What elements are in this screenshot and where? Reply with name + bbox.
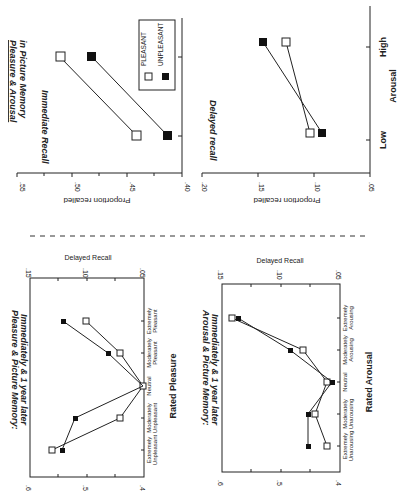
figure-canvas: .55 .50 .45 .40 Proportion recalled Plea… <box>0 0 401 491</box>
c3-tick-015: .15 <box>25 268 32 278</box>
c2-tick-005: .05 <box>368 182 375 192</box>
c4-title-line2: Immediately & 1 year later <box>210 314 220 426</box>
c2-pleasant-low-point <box>306 129 314 137</box>
c3-bottom-tick-05: .5 <box>82 485 89 491</box>
c3-open-point <box>117 415 123 421</box>
c3-cat-mod-pleasant-b: Pleasant <box>152 341 158 365</box>
c2-y-axis-label: Proportion recalled <box>253 196 320 205</box>
c2-tick-020: .20 <box>201 182 208 192</box>
c1-unpleasant-high-point <box>87 52 96 61</box>
c4-open-point <box>300 347 306 353</box>
legend-pleasant-label: PLEASANT <box>140 32 147 66</box>
c3-filled-point <box>61 319 66 324</box>
c4-filled-point <box>306 412 311 417</box>
c1-subtitle: Immediate Recall <box>40 90 50 164</box>
c4-cat-mod-unarousing-b: Unarousing <box>348 399 354 430</box>
c4-tick-005: .05 <box>335 270 342 280</box>
c3-tick-010: .10 <box>82 268 89 278</box>
chart-immediate-recall: .55 .50 .45 .40 Proportion recalled Plea… <box>8 18 191 205</box>
c1-pleasant-low-point <box>132 131 141 140</box>
c1-pleasant-high-point <box>56 52 65 61</box>
c4-cat-ext-arousing-b: Arousing <box>348 306 354 330</box>
c3-open-point <box>83 318 89 324</box>
chart-pleasure-memory: Delayed Recall .15 .10 .05 .6 .5 .4 Plea… <box>10 254 178 491</box>
c4-filled-point <box>236 316 241 321</box>
c4-tick-015: .15 <box>217 270 224 280</box>
c1-tick-050: .50 <box>74 182 81 192</box>
c3-title-line1: Pleasure & Picture Memory: <box>10 310 20 430</box>
legend-pleasant-swatch <box>145 73 152 80</box>
c3-filled-point <box>73 416 78 421</box>
c4-open-point <box>229 315 235 321</box>
c3-filled-point <box>60 448 65 453</box>
c4-bottom-tick-05: .5 <box>276 480 283 486</box>
legend-unpleasant-swatch <box>162 73 169 80</box>
c3-cat-ext-pleasant-b: Pleasant <box>152 309 158 333</box>
c3-open-point <box>49 447 55 453</box>
c4-title-line1: Arousal & Picture Memory: <box>201 309 211 426</box>
c4-filled-point <box>306 444 311 449</box>
c4-cat-ext-unarousing-b: Unarousing <box>348 431 354 462</box>
c2-pleasant-high-point <box>282 38 290 46</box>
c3-tick-005: .05 <box>139 268 146 278</box>
c3-cat-mod-unpleasant-b: Unpleasant <box>152 402 158 433</box>
c3-filled-point <box>106 351 111 356</box>
c3-bottom-tick-04: .4 <box>139 485 146 491</box>
c4-cat-neutral: Neutral <box>342 372 348 391</box>
c1-tick-045: .45 <box>129 182 136 192</box>
c4-filled-point <box>330 380 335 385</box>
c2-unpleasant-high-point <box>259 38 267 46</box>
c1-tick-040: .40 <box>184 182 191 192</box>
c2-tick-010: .10 <box>314 182 321 192</box>
c1-tick-055: .55 <box>19 182 26 192</box>
c3-x-axis-label: Rated Pleasure <box>168 353 178 418</box>
c2-tick-015: .15 <box>258 182 265 192</box>
c4-filled-point <box>288 348 293 353</box>
c4-bottom-tick-04: .4 <box>335 480 342 486</box>
c1-title-line2: in Picture Memory <box>18 40 28 119</box>
c2-x-axis-label: Arousal <box>388 69 398 103</box>
c3-top-axis-label: Delayed Recall <box>64 254 112 262</box>
c3-bottom-tick-06: .6 <box>25 485 32 491</box>
c4-open-point <box>312 411 318 417</box>
c2-x-high: High <box>378 37 388 57</box>
legend-unpleasant-label: UNPLEASANT <box>157 23 164 66</box>
c3-title-line2: Immediately & 1 year later <box>19 314 29 426</box>
c4-open-point <box>324 443 330 449</box>
c2-unpleasant-low-point <box>318 129 326 137</box>
c4-cat-mod-arousing-b: Arousing <box>348 338 354 362</box>
c4-x-axis-label: Rated Arousal <box>364 352 374 413</box>
c2-x-low: Low <box>378 130 388 149</box>
chart-arousal-memory: Delayed Recall .15 .10 .05 .6 .5 .4 Arou… <box>201 257 374 486</box>
c3-cat-ext-unpleasant-b: Unpleasant <box>152 434 158 465</box>
c1-title-line1: Pleasure & Arousal <box>8 40 18 123</box>
chart-delayed-recall: .20 .15 .10 .05 Proportion recalled Dela… <box>201 6 398 205</box>
c4-bottom-tick-06: .6 <box>217 480 224 486</box>
c4-top-axis-label: Delayed Recall <box>256 257 304 265</box>
c2-subtitle: Delayed recall <box>208 100 218 161</box>
c3-cat-neutral: Neutral <box>146 376 152 395</box>
c4-tick-010: .10 <box>276 270 283 280</box>
c1-y-axis-label: Proportion recalled <box>63 196 130 205</box>
c1-unpleasant-low-point <box>163 131 172 140</box>
c3-open-point <box>117 350 123 356</box>
c1-legend: PLEASANT UNPLEASANT <box>139 20 175 90</box>
